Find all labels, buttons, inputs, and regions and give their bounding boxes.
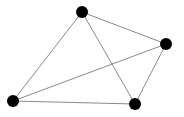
graph-diagram	[0, 0, 184, 117]
node-right	[160, 38, 172, 50]
node-bottom-right	[129, 98, 141, 110]
edge-bottom-left-bottom-right	[13, 101, 135, 104]
edge-top-right	[82, 12, 166, 44]
node-top	[76, 6, 88, 18]
edge-right-bottom-right	[135, 44, 166, 104]
graph-edges	[13, 12, 166, 104]
edge-right-bottom-left	[13, 44, 166, 101]
node-bottom-left	[7, 95, 19, 107]
